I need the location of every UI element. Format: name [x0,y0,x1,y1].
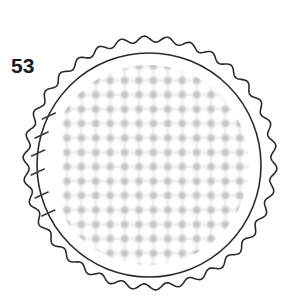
tart-crust-diagram [0,0,305,297]
dotted-lattice-fill [64,63,251,279]
